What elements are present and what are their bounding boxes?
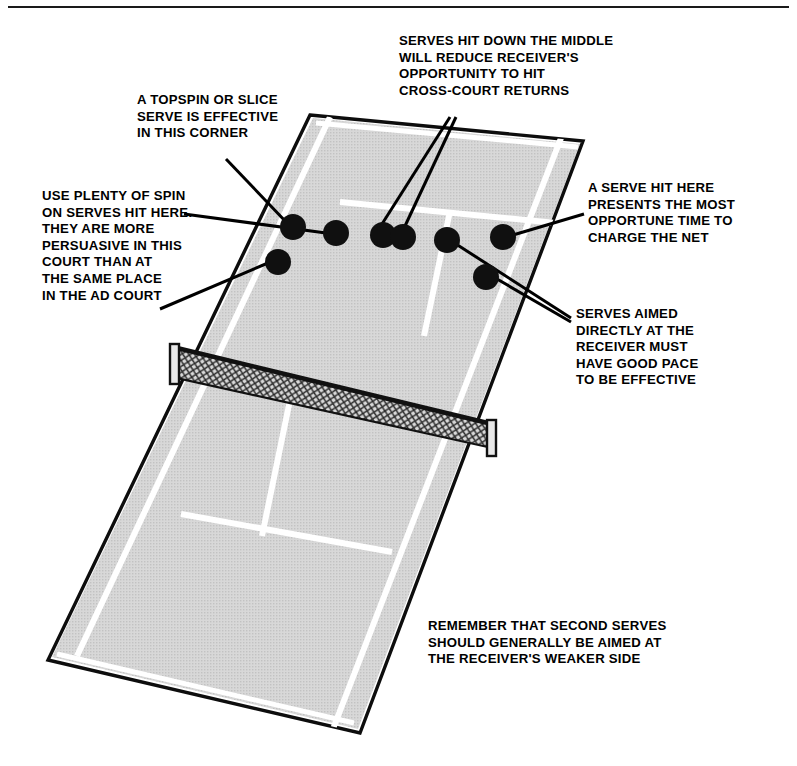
ball-short-right	[473, 264, 499, 290]
callout-topspin-or-slice: A TOPSPIN OR SLICE SERVE IS EFFECTIVE IN…	[137, 92, 278, 142]
callout-serves-aimed-at-receiver: SERVES AIMED DIRECTLY AT THE RECEIVER MU…	[576, 306, 698, 389]
net-post-left	[170, 344, 179, 384]
callout-use-plenty-of-spin: USE PLENTY OF SPIN ON SERVES HIT HERE. T…	[42, 188, 192, 304]
ball-body-left	[323, 220, 349, 246]
callout-serve-hit-here: A SERVE HIT HERE PRESENTS THE MOST OPPOR…	[588, 180, 735, 246]
ball-corner-wide	[280, 214, 306, 240]
ball-short-left	[265, 249, 291, 275]
ball-center-t	[434, 227, 460, 253]
ball-right-wide	[490, 224, 516, 250]
figure-canvas: SERVES HIT DOWN THE MIDDLE WILL REDUCE R…	[0, 0, 797, 766]
net-post-right	[487, 420, 496, 456]
callout-remember-second-serves: REMEMBER THAT SECOND SERVES SHOULD GENER…	[428, 618, 667, 668]
callout-serves-down-the-middle: SERVES HIT DOWN THE MIDDLE WILL REDUCE R…	[399, 33, 613, 99]
ball-middle-b	[390, 224, 416, 250]
